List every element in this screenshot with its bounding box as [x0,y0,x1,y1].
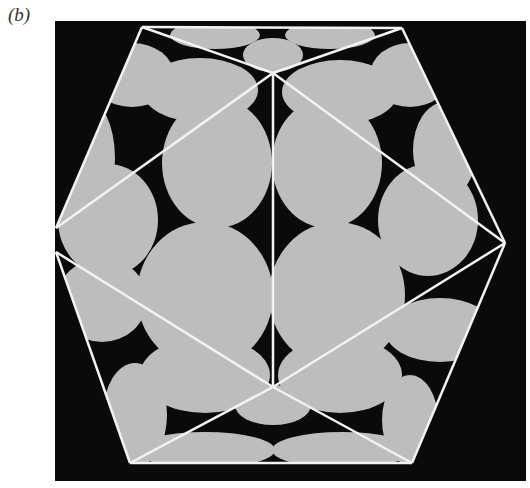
icosahedron-figure [0,0,530,488]
subunit-blob [235,385,311,425]
polyhedron-edge [142,27,402,28]
